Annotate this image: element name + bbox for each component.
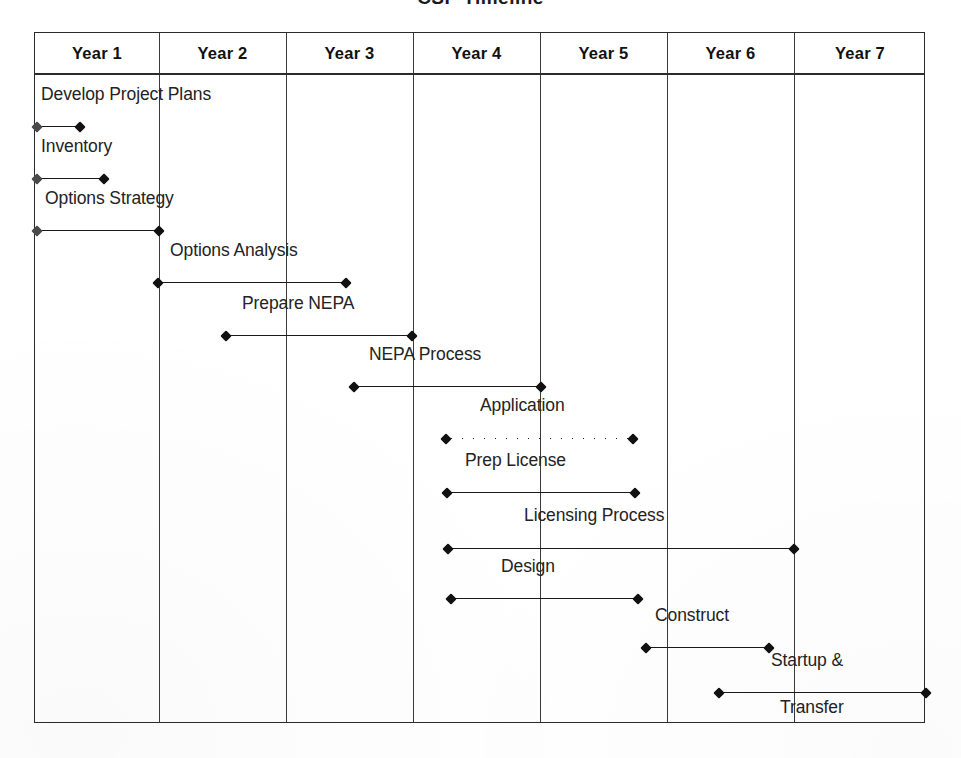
task-bar-start-marker [31, 173, 42, 184]
task-label-application: Application [480, 395, 565, 416]
task-bar-end-marker [406, 330, 417, 341]
task-label-prepare-nepa: Prepare NEPA [242, 293, 354, 314]
task-bar-prep-license [447, 492, 635, 493]
header-separator [35, 73, 924, 75]
task-bar-end-marker [98, 173, 109, 184]
task-label-design: Design [501, 556, 555, 577]
task-bar-start-marker [445, 593, 456, 604]
task-label-nepa-process: NEPA Process [369, 344, 481, 365]
task-bar-startup-and-transfer [719, 692, 926, 693]
task-label-startup-and-transfer-line1: Startup & [771, 650, 843, 671]
task-bar-start-marker [31, 121, 42, 132]
task-bar-end-marker [74, 121, 85, 132]
task-bar-end-marker [629, 487, 640, 498]
task-bar-licensing-process [448, 548, 794, 549]
task-bar-prepare-nepa [226, 335, 412, 336]
task-label-inventory: Inventory [41, 136, 112, 157]
task-bar-end-marker [340, 277, 351, 288]
task-label-construct: Construct [655, 605, 729, 626]
task-label-prep-license: Prep License [465, 450, 566, 471]
task-bar-application [446, 437, 633, 440]
task-bar-options-strategy [36, 230, 159, 231]
column-header-year-4: Year 4 [413, 33, 540, 73]
column-header-year-6: Year 6 [667, 33, 794, 73]
task-bar-start-marker [31, 225, 42, 236]
task-bar-end-marker [920, 687, 931, 698]
task-bar-start-marker [152, 277, 163, 288]
task-bar-inventory [36, 178, 104, 179]
task-label-licensing-process: Licensing Process [524, 505, 664, 526]
task-bar-develop-project-plans [36, 126, 80, 127]
column-header-year-3: Year 3 [286, 33, 413, 73]
task-bar-start-marker [713, 687, 724, 698]
task-bar-start-marker [220, 330, 231, 341]
task-bar-construct [646, 647, 769, 648]
task-bar-end-marker [788, 543, 799, 554]
page-title: CSP Timeline [0, 0, 961, 9]
column-header-year-7: Year 7 [794, 33, 926, 73]
task-bar-options-analysis [158, 282, 346, 283]
column-header-year-5: Year 5 [540, 33, 667, 73]
task-bar-design [451, 598, 638, 599]
task-bar-end-marker [627, 433, 638, 444]
column-divider [794, 33, 795, 722]
task-label-options-analysis: Options Analysis [170, 240, 298, 261]
task-label-startup-and-transfer-line2: Transfer [780, 697, 844, 718]
task-bar-start-marker [442, 543, 453, 554]
column-divider [540, 33, 541, 722]
task-label-develop-project-plans: Develop Project Plans [41, 84, 211, 105]
column-divider [286, 33, 287, 722]
column-header-year-2: Year 2 [159, 33, 286, 73]
task-label-options-strategy: Options Strategy [45, 188, 174, 209]
column-divider [159, 33, 160, 722]
task-bar-end-marker [632, 593, 643, 604]
task-bar-start-marker [640, 642, 651, 653]
gantt-chart-grid: Year 1 Year 2 Year 3 Year 4 Year 5 Year … [34, 32, 925, 723]
column-header-year-1: Year 1 [35, 33, 159, 73]
task-bar-start-marker [440, 433, 451, 444]
task-bar-end-marker [153, 225, 164, 236]
task-bar-nepa-process [354, 386, 541, 387]
task-bar-start-marker [441, 487, 452, 498]
task-bar-start-marker [348, 381, 359, 392]
column-divider [413, 33, 414, 722]
task-bar-end-marker [535, 381, 546, 392]
